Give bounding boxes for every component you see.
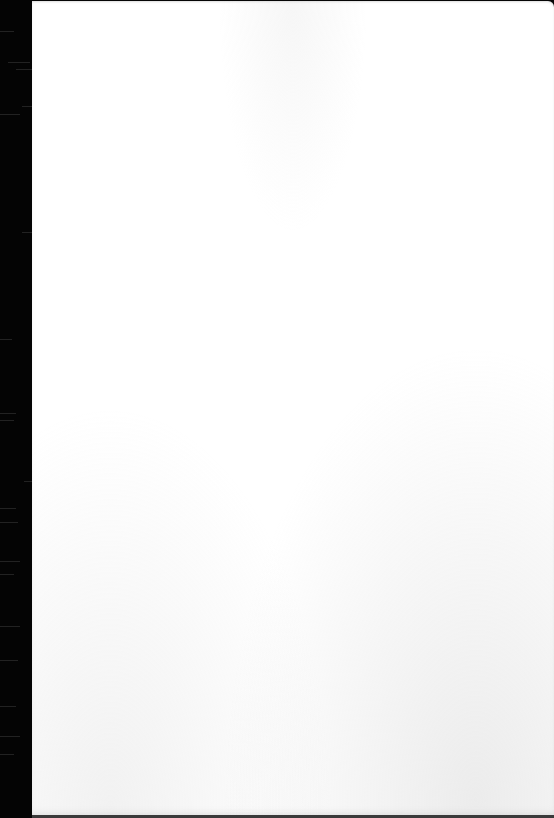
background-texture-mark [0, 574, 14, 575]
background-texture-mark [0, 522, 18, 523]
background-texture-mark [0, 31, 14, 32]
background-texture-mark [0, 736, 20, 737]
blank-paper-sheet [32, 1, 554, 816]
background-texture-mark [0, 413, 16, 414]
background-texture-mark [22, 106, 32, 107]
background-texture-mark [0, 508, 16, 509]
background-texture-mark [8, 62, 30, 63]
background-texture-mark [22, 232, 32, 233]
background-texture-mark [0, 339, 12, 340]
background-texture-mark [0, 114, 20, 115]
background-texture-mark [0, 420, 14, 421]
background-texture-mark [0, 561, 20, 562]
background-texture-mark [0, 660, 18, 661]
paper-texture [32, 1, 554, 816]
photo-scene [0, 0, 554, 818]
background-texture-mark [24, 481, 32, 482]
dark-background-strip [0, 0, 33, 818]
background-texture-mark [0, 754, 14, 755]
background-texture-mark [16, 69, 32, 70]
background-texture-mark [0, 626, 20, 627]
background-texture-mark [0, 706, 16, 707]
